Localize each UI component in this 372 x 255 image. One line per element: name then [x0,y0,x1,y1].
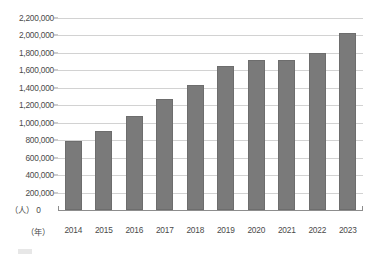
x-axis-tick-label: 2018 [180,225,211,235]
x-axis-tick-label: 2022 [302,225,333,235]
x-axis-tick-label: 2014 [58,225,89,235]
bar-slot [272,18,303,210]
x-axis-tick-label: 2019 [211,225,242,235]
bar-slot [89,18,120,210]
bar-slot [58,18,89,210]
legend-swatch [18,249,32,254]
bar-2019[interactable] [217,66,234,210]
y-axis-tick-label: 1,600,000 [19,65,54,75]
bar-slot [180,18,211,210]
bar-2014[interactable] [65,141,82,210]
y-axis-tick-label: 1,800,000 [19,48,54,58]
y-axis-tick-label: 1,400,000 [19,83,54,93]
axis-baseline [58,210,363,211]
y-axis-unit-label: （人） 0 [10,203,41,215]
x-axis-labels: 2014201520162017201820192020202120222023 [58,225,363,235]
legend [18,249,37,254]
plot-area [58,18,363,210]
y-axis-tick-label: 2,000,000 [19,30,54,40]
bar-2021[interactable] [278,60,295,210]
bar-2022[interactable] [309,53,326,210]
y-axis-tick-label: 200,000 [25,188,54,198]
y-axis-tick-label: 800,000 [25,135,54,145]
x-axis-tick-label: 2016 [119,225,150,235]
x-axis-tick-label: 2020 [241,225,272,235]
bar-slot [211,18,242,210]
y-axis-unit-text: （人） [10,205,34,215]
bar-chart: 2,200,0002,000,0001,800,0001,600,0001,40… [0,0,372,255]
y-axis-tick-label: 600,000 [25,153,54,163]
bar-2017[interactable] [156,99,173,210]
bar-series [58,18,363,210]
y-axis-labels: 2,200,0002,000,0001,800,0001,600,0001,40… [0,18,54,210]
x-axis-unit-label: （年） [26,225,50,237]
x-axis-tick-label: 2023 [333,225,364,235]
y-axis-tick-label: 400,000 [25,170,54,180]
y-axis-tick-label: 1,000,000 [19,118,54,128]
axis-left-cap [58,206,59,211]
bar-slot [119,18,150,210]
y-axis-tick-label: 1,200,000 [19,100,54,110]
bar-2020[interactable] [248,60,265,210]
bar-2023[interactable] [339,33,356,210]
bar-2015[interactable] [95,131,112,210]
x-axis-tick-label: 2015 [89,225,120,235]
bar-slot [302,18,333,210]
bar-slot [150,18,181,210]
bar-slot [241,18,272,210]
bar-2018[interactable] [187,85,204,210]
x-axis-tick-label: 2021 [272,225,303,235]
axis-right-cap [362,206,363,211]
y-axis-tick-label: 2,200,000 [19,13,54,23]
x-axis-tick-label: 2017 [150,225,181,235]
y-axis-zero-label: 0 [36,205,41,215]
bar-2016[interactable] [126,116,143,210]
bar-slot [333,18,364,210]
